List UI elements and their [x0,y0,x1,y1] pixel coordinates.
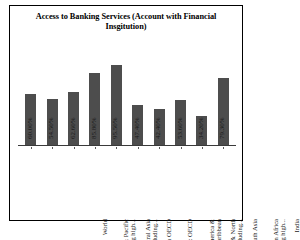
chart-title-line-1: Access to Banking Services (Account with… [16,12,236,22]
bar-value-label: 95.50% [113,117,120,139]
chart-title-line-2: Insgitution) [16,22,236,32]
bar-slot: 54.50% [41,39,62,145]
chart-title: Access to Banking Services (Account with… [16,12,236,32]
x-tick-slot: India [213,147,234,219]
x-tick-mark [223,147,224,149]
x-axis-label: High income: OECD [186,219,193,230]
bar-value-label: 34.20% [198,117,205,139]
x-tick-mark [181,147,182,149]
bar-slot: 53.60% [170,39,191,145]
x-tick-slot: Latin America & Caribbean [127,147,148,219]
bar-slot: 95.50% [106,39,127,145]
bar-slot: 34.20% [191,39,212,145]
x-tick-slot: Middle East & North Africa (excluding... [148,147,169,219]
x-axis-label: South Asia [251,219,254,230]
bar-value-label: 60.00% [27,117,34,139]
plot-area: 60.00% 54.50% 62.60% 85.80% 95.50% 47.40 [20,39,234,145]
x-tick-slot: High income: non OECD [84,147,105,219]
bar-value-label: 85.80% [91,117,98,139]
x-tick-slot: East Asia & Pacific (excluding high... [41,147,62,219]
x-axis-label: High income: non OECD [165,219,172,230]
x-tick-mark [138,147,139,149]
x-tick-slot: South Asia [170,147,191,219]
x-tick-slot: Sub-Saharan Africa (excluding high... [191,147,212,219]
chart-figure: Access to Banking Services (Account with… [9,5,243,221]
x-axis-labels: World East Asia & Pacific (excluding hig… [20,147,234,219]
x-axis-label: East Asia & Pacific (excluding high... [122,219,137,230]
bar-slot: 62.60% [63,39,84,145]
bar-value-label: 42.40% [156,117,163,139]
x-tick-mark [74,147,75,149]
x-axis-label: Middle East & North Africa (excluding... [229,219,244,230]
x-tick-mark [116,147,117,149]
bar-value-label: 62.60% [70,117,77,139]
x-tick-mark [159,147,160,149]
x-tick-slot: High income: OECD [106,147,127,219]
x-tick-mark [95,147,96,149]
bar-slot: 60.00% [20,39,41,145]
x-tick-slot: World [20,147,41,219]
x-axis-label: World [101,219,108,230]
x-tick-mark [202,147,203,149]
bar-slot: 79.30% [213,39,234,145]
bar-slot: 47.40% [127,39,148,145]
x-tick-mark [52,147,53,149]
bar-value-label: 47.40% [134,117,141,139]
x-axis-label: Latin America & Caribbean [208,219,223,230]
bar-value-label: 54.50% [49,117,56,139]
x-axis-label: Europe & Central Asia (excluding... [144,219,159,230]
x-tick-slot: Europe & Central Asia (excluding... [63,147,84,219]
bar-series: 60.00% 54.50% 62.60% 85.80% 95.50% 47.40 [20,39,234,145]
bar-slot: 42.40% [148,39,169,145]
x-axis-line [18,145,236,146]
bar-value-label: 53.60% [177,117,184,139]
x-tick-mark [31,147,32,149]
bar-slot: 85.80% [84,39,105,145]
bar-value-label: 79.30% [220,117,227,139]
